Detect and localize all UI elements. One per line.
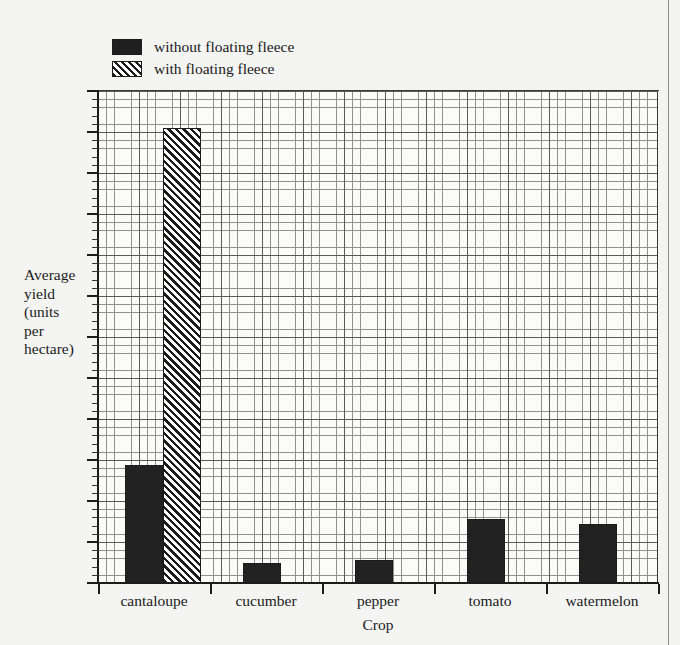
bar-with-fleece: [163, 128, 201, 583]
y-tick-minor: [92, 124, 98, 125]
x-tick: [322, 584, 324, 594]
x-tick: [434, 584, 436, 594]
y-tick-minor: [92, 181, 98, 182]
legend-label-with-fleece: with floating fleece: [154, 61, 275, 77]
y-tick-minor: [92, 312, 98, 313]
y-tick-minor: [92, 288, 98, 289]
y-tick-minor: [92, 452, 98, 453]
bar-without-fleece: [243, 563, 281, 583]
y-axis-title-line-5: hectare): [24, 340, 96, 359]
legend-item-with-fleece: with floating fleece: [112, 58, 294, 80]
legend-swatch-solid-icon: [112, 39, 142, 55]
y-tick-minor: [92, 567, 98, 568]
y-tick-minor: [92, 444, 98, 445]
bar-without-fleece: [467, 519, 505, 583]
y-axis-title-line-3: (units: [24, 303, 96, 322]
y-tick-major: [87, 172, 98, 174]
y-tick-minor: [92, 386, 98, 387]
x-tick-label-cucumber: cucumber: [235, 592, 296, 610]
y-tick-minor: [92, 411, 98, 412]
y-axis-title-line-4: per: [24, 322, 96, 341]
y-tick-minor: [92, 468, 98, 469]
y-tick-minor: [92, 526, 98, 527]
x-tick: [546, 584, 548, 594]
y-tick-major: [87, 459, 98, 461]
y-tick-minor: [92, 198, 98, 199]
y-tick-major: [87, 336, 98, 338]
y-tick-major: [87, 541, 98, 543]
y-tick-minor: [92, 157, 98, 158]
y-tick-minor: [92, 534, 98, 535]
y-tick-minor: [92, 362, 98, 363]
y-tick-major: [87, 582, 98, 584]
bar-without-fleece: [355, 560, 393, 583]
y-axis-title: Average yield (units per hectare): [24, 266, 96, 359]
y-tick-minor: [92, 353, 98, 354]
bar-without-fleece: [579, 524, 617, 583]
y-tick-minor: [92, 394, 98, 395]
y-tick-minor: [92, 329, 98, 330]
bar-chart-figure: without floating fleece with floating fl…: [0, 0, 668, 645]
y-tick-minor: [92, 271, 98, 272]
y-tick-major: [87, 377, 98, 379]
x-tick: [98, 584, 100, 594]
y-tick-minor: [92, 189, 98, 190]
y-tick-minor: [92, 435, 98, 436]
x-tick-label-pepper: pepper: [357, 592, 399, 610]
y-tick-major: [87, 213, 98, 215]
y-tick-minor: [92, 222, 98, 223]
y-tick-minor: [92, 304, 98, 305]
y-tick-minor: [92, 427, 98, 428]
y-tick-minor: [92, 550, 98, 551]
x-tick-label-tomato: tomato: [468, 592, 511, 610]
y-tick-minor: [92, 99, 98, 100]
y-tick-major: [87, 500, 98, 502]
y-tick-major: [87, 295, 98, 297]
y-axis-title-line-1: Average: [24, 266, 96, 285]
y-tick-minor: [92, 485, 98, 486]
x-tick-label-watermelon: watermelon: [565, 592, 638, 610]
bar-without-fleece: [125, 465, 163, 583]
y-tick-major: [87, 131, 98, 133]
y-tick-minor: [92, 107, 98, 108]
x-tick: [210, 584, 212, 594]
y-tick-minor: [92, 247, 98, 248]
page-edge-rule: [668, 0, 669, 645]
y-tick-minor: [92, 558, 98, 559]
x-tick: [658, 584, 660, 594]
y-tick-minor: [92, 263, 98, 264]
plot-border-right: [657, 90, 658, 584]
plot-border-top: [97, 90, 659, 91]
y-tick-major: [87, 90, 98, 92]
y-tick-minor: [92, 206, 98, 207]
y-tick-minor: [92, 280, 98, 281]
y-tick-minor: [92, 230, 98, 231]
y-tick-minor: [92, 321, 98, 322]
y-tick-major: [87, 254, 98, 256]
y-tick-minor: [92, 403, 98, 404]
chart-legend: without floating fleece with floating fl…: [112, 36, 294, 80]
y-tick-minor: [92, 140, 98, 141]
y-tick-major: [87, 418, 98, 420]
y-tick-minor: [92, 509, 98, 510]
legend-swatch-hatch-icon: [112, 61, 142, 77]
y-tick-minor: [92, 476, 98, 477]
y-tick-minor: [92, 165, 98, 166]
y-tick-minor: [92, 493, 98, 494]
legend-item-without-fleece: without floating fleece: [112, 36, 294, 58]
x-tick-label-cantaloupe: cantaloupe: [120, 592, 187, 610]
y-tick-minor: [92, 345, 98, 346]
y-axis-title-line-2: yield: [24, 285, 96, 304]
legend-label-without-fleece: without floating fleece: [154, 39, 294, 55]
y-tick-minor: [92, 239, 98, 240]
x-axis-title: Crop: [363, 616, 394, 634]
y-tick-minor: [92, 370, 98, 371]
y-tick-minor: [92, 575, 98, 576]
y-tick-minor: [92, 116, 98, 117]
y-tick-minor: [92, 517, 98, 518]
y-tick-minor: [92, 148, 98, 149]
